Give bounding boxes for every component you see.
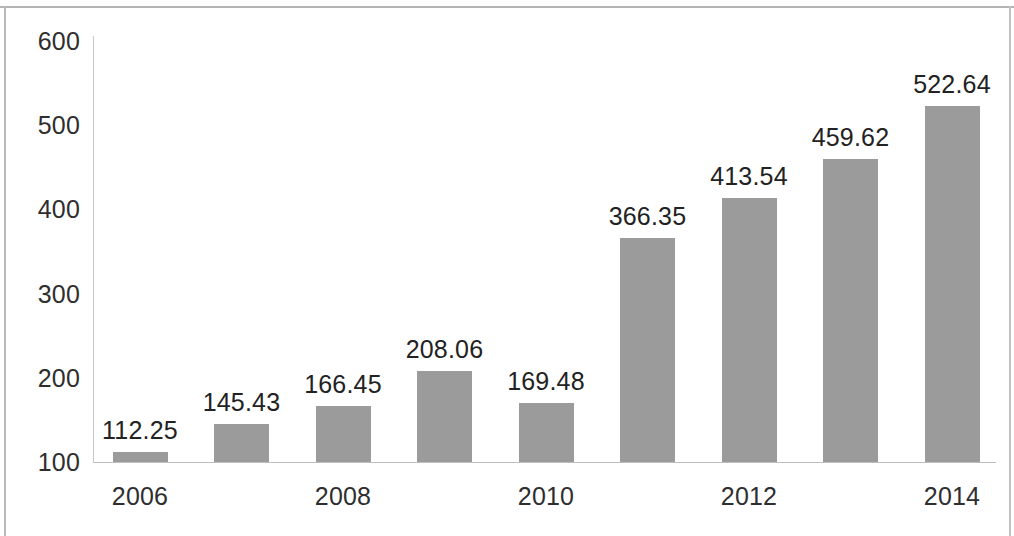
bar-value-label-2011: 366.35: [609, 204, 687, 229]
bar-value-label-2012: 413.54: [710, 164, 788, 189]
bar-value-label-2009: 208.06: [406, 337, 484, 362]
bar-2008: [316, 406, 371, 462]
y-axis-tick-600: 600: [18, 29, 80, 54]
bar-2010: [519, 403, 574, 462]
x-axis-tick-2014: 2014: [924, 484, 980, 509]
y-axis-tick-500: 500: [18, 113, 80, 138]
bar-2009: [417, 371, 472, 462]
y-axis-tick-400: 400: [18, 197, 80, 222]
x-axis-tick-2012: 2012: [721, 484, 777, 509]
x-axis-tick-2008: 2008: [315, 484, 371, 509]
bar-2006: [113, 452, 168, 462]
y-axis-tick-300: 300: [18, 281, 80, 306]
y-axis-tick-200: 200: [18, 365, 80, 390]
x-axis-tick-2010: 2010: [518, 484, 574, 509]
y-axis-line: [93, 36, 94, 463]
bar-2007: [214, 424, 269, 462]
bar-value-label-2007: 145.43: [203, 390, 281, 415]
x-axis-tick-2006: 2006: [112, 484, 168, 509]
bar-value-label-2014: 522.64: [913, 72, 991, 97]
y-axis-tick-100: 100: [18, 450, 80, 475]
bar-2012: [722, 198, 777, 462]
bar-value-label-2008: 166.45: [304, 372, 382, 397]
bar-value-label-2010: 169.48: [507, 369, 585, 394]
bar-value-label-2013: 459.62: [812, 125, 890, 150]
bar-2013: [823, 159, 878, 462]
bar-2011: [620, 238, 675, 462]
bar-value-label-2006: 112.25: [102, 418, 178, 443]
plot-area: 600500400300200100 112.25145.43166.45208…: [0, 0, 1014, 536]
bar-2014: [925, 106, 980, 462]
x-axis-line: [93, 462, 996, 463]
bar-chart-figure: 600500400300200100 112.25145.43166.45208…: [0, 0, 1014, 536]
